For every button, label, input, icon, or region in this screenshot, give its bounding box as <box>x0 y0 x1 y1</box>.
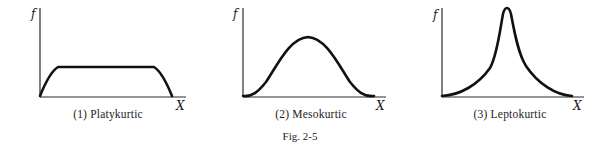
panel-caption: (2) Mesokurtic <box>275 108 346 121</box>
panel-caption: (1) Platykurtic <box>73 108 143 121</box>
y-axis-label: f <box>30 7 38 21</box>
panel-platykurtic: f X (1) Platykurtic <box>30 7 186 121</box>
panel-mesokurtic: f X (2) Mesokurtic Fig. 2-5 <box>232 7 386 142</box>
x-axis-label: X <box>175 99 185 113</box>
mesokurtic-curve <box>243 37 374 96</box>
figure-caption: Fig. 2-5 <box>283 130 318 142</box>
x-axis-label: X <box>572 99 582 113</box>
leptokurtic-curve <box>442 8 572 96</box>
y-axis-label: f <box>232 7 240 21</box>
y-axis-label: f <box>432 8 440 22</box>
platykurtic-curve <box>40 67 172 96</box>
panel-leptokurtic: f X (3) Leptokurtic <box>432 8 584 121</box>
x-axis-label: X <box>375 99 385 113</box>
panel-caption: (3) Leptokurtic <box>474 108 547 121</box>
kurtosis-figure: f X (1) Platykurtic f X (2) Mesokurtic F… <box>0 0 613 154</box>
